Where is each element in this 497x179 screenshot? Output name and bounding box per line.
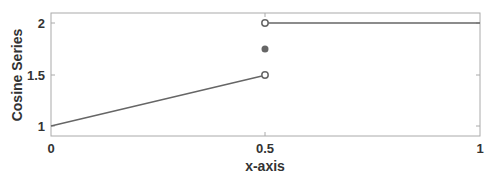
- filled-marker: [262, 46, 269, 53]
- y-axis-label: Cosine Series: [9, 28, 25, 121]
- ytick-label: 1.5: [27, 68, 45, 83]
- ytick-label: 1: [38, 119, 45, 134]
- x-axis-label: x-axis: [245, 158, 285, 174]
- chart: 2 1.5 1 0 0.5 1 x-axis Cosine Series: [0, 0, 497, 179]
- open-marker: [262, 72, 268, 78]
- xtick-label: 0.5: [256, 141, 274, 156]
- open-marker: [262, 20, 268, 26]
- ytick-label: 2: [38, 16, 45, 31]
- xtick-label: 0: [47, 141, 54, 156]
- xtick-label: 1: [476, 141, 483, 156]
